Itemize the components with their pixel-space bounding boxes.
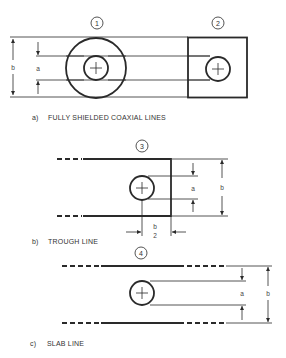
dim-b-label: b: [266, 290, 270, 297]
label-3: 3: [140, 143, 144, 150]
dim-a-label: a: [191, 185, 195, 192]
label-2: 2: [216, 20, 220, 27]
dim-half-numerator: b: [153, 223, 157, 230]
center-cross-icon: [212, 63, 224, 75]
caption-b-letter: b): [32, 238, 39, 246]
dim-half-denominator: 2: [153, 232, 157, 239]
dim-b-label: b: [220, 184, 224, 191]
center-cross-icon: [136, 287, 148, 299]
center-cross-icon: [90, 62, 102, 74]
caption-a-text: FULLY SHIELDED COAXIAL LINES: [48, 114, 166, 121]
caption-c-letter: c): [30, 340, 36, 348]
caption-c-text: SLAB LINE: [47, 340, 84, 347]
label-1-circle-icon: 1: [91, 17, 103, 29]
label-1: 1: [95, 20, 99, 27]
caption-b-text: TROUGH LINE: [48, 238, 98, 245]
dim-a-label: a: [240, 290, 244, 297]
label-2-circle-icon: 2: [212, 17, 224, 29]
label-4-circle-icon: 4: [135, 247, 147, 259]
transmission-line-diagram: 1 2 b a: [0, 0, 286, 358]
label-4: 4: [139, 250, 143, 257]
panel-a-coaxial-lines: 1 2 b a: [10, 17, 247, 122]
panel-c-slab-line: 4 a b c) SLAB LINE: [30, 247, 272, 348]
center-cross-icon: [136, 182, 148, 194]
dim-b-label: b: [11, 64, 15, 71]
outer-square-conductor: [188, 38, 247, 98]
caption-a-letter: a): [32, 114, 39, 122]
panel-b-trough-line: 3 a b b 2: [32, 140, 228, 246]
label-3-circle-icon: 3: [136, 140, 148, 152]
dim-a-label: a: [36, 65, 40, 72]
